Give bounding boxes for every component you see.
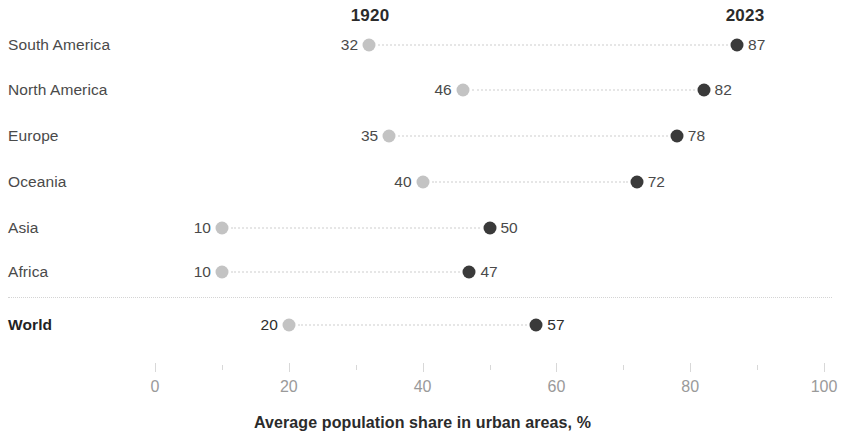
data-point-1920 <box>363 39 376 52</box>
x-axis-tick-minor <box>490 365 491 370</box>
x-axis-tick-minor <box>356 365 357 370</box>
data-point-1920 <box>416 176 429 189</box>
value-label-1920: 20 <box>261 316 278 334</box>
value-label-2023: 47 <box>480 263 497 281</box>
data-point-2023 <box>630 176 643 189</box>
x-axis-title: Average population share in urban areas,… <box>0 414 845 432</box>
data-point-2023 <box>483 222 496 235</box>
value-label-2023: 87 <box>748 36 765 54</box>
data-point-2023 <box>670 130 683 143</box>
x-axis-tick-minor <box>757 365 758 370</box>
value-label-2023: 78 <box>688 127 705 145</box>
row-connector-line <box>398 135 668 137</box>
data-point-1920 <box>456 84 469 97</box>
data-point-1920 <box>215 222 228 235</box>
x-axis-tick-minor <box>623 365 624 370</box>
x-axis-tick-label: 0 <box>151 378 160 396</box>
x-axis-tick-major <box>690 363 691 372</box>
row-connector-line <box>472 89 695 91</box>
dot-plot-chart: 1920 2023 South America3287North America… <box>0 0 845 437</box>
data-point-1920 <box>282 319 295 332</box>
data-point-1920 <box>383 130 396 143</box>
row-connector-line <box>432 181 628 183</box>
row-connector-line <box>298 324 528 326</box>
row-label: World <box>8 316 52 334</box>
x-axis-tick-label: 80 <box>681 378 699 396</box>
row-label: Africa <box>8 263 48 281</box>
x-axis-tick-label: 20 <box>280 378 298 396</box>
row-connector-line <box>378 44 728 46</box>
x-axis-tick-label: 40 <box>414 378 432 396</box>
value-label-2023: 82 <box>715 81 732 99</box>
x-axis-tick-label: 100 <box>811 378 838 396</box>
x-axis-tick-major <box>289 363 290 372</box>
data-point-2023 <box>697 84 710 97</box>
row-connector-line <box>231 227 481 229</box>
data-point-2023 <box>530 319 543 332</box>
value-label-2023: 57 <box>547 316 564 334</box>
column-header-1920: 1920 <box>351 6 390 26</box>
row-label: Oceania <box>8 173 66 191</box>
row-label: North America <box>8 81 108 99</box>
column-header-2023: 2023 <box>726 6 765 26</box>
row-label: South America <box>8 36 110 54</box>
value-label-1920: 32 <box>341 36 358 54</box>
value-label-2023: 72 <box>648 173 665 191</box>
x-axis-tick-major <box>824 363 825 372</box>
value-label-1920: 46 <box>434 81 451 99</box>
value-label-1920: 10 <box>194 219 211 237</box>
value-label-1920: 35 <box>361 127 378 145</box>
x-axis-tick-major <box>423 363 424 372</box>
x-axis-tick-major <box>155 363 156 372</box>
x-axis-tick-major <box>556 363 557 372</box>
data-point-2023 <box>731 39 744 52</box>
x-axis-tick-minor <box>222 365 223 370</box>
data-point-1920 <box>215 266 228 279</box>
value-label-1920: 40 <box>394 173 411 191</box>
row-connector-line <box>231 271 461 273</box>
value-label-1920: 10 <box>194 263 211 281</box>
data-point-2023 <box>463 266 476 279</box>
x-axis-tick-label: 60 <box>547 378 565 396</box>
row-label: Asia <box>8 219 39 237</box>
value-label-2023: 50 <box>501 219 518 237</box>
row-label: Europe <box>8 127 59 145</box>
total-row-separator <box>8 297 832 298</box>
